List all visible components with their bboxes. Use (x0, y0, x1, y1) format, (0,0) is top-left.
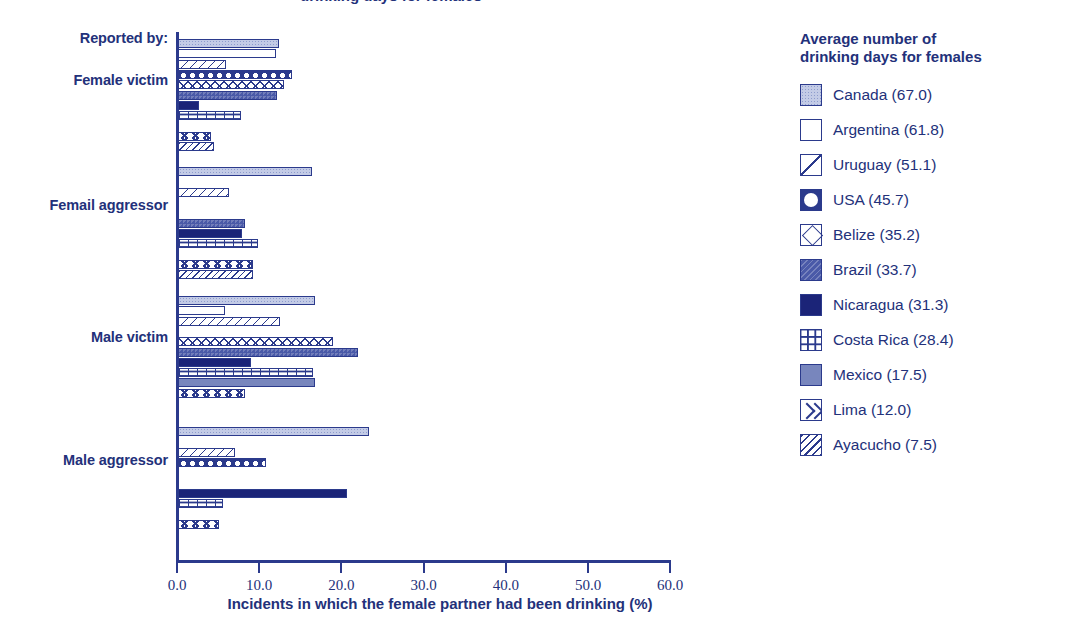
bar-canada-male-victim (178, 296, 315, 305)
legend-item-label: Canada (67.0) (833, 86, 932, 104)
x-tick-mark (587, 563, 589, 573)
bar-uruguay-female-victim (178, 60, 226, 69)
legend-item-label: Mexico (17.5) (833, 366, 927, 384)
x-tick-label: 20.0 (311, 577, 371, 594)
bar-uruguay-male-aggressor (178, 448, 235, 457)
legend-item-costa-rica[interactable]: Costa Rica (28.4) (800, 322, 1062, 357)
bar-usa-male-aggressor (178, 458, 266, 467)
bar-lima-male-aggressor (178, 520, 219, 529)
bar-brazil-male-victim (178, 348, 358, 357)
grid-swatch-icon (800, 329, 822, 351)
legend-item-label: Uruguay (51.1) (833, 156, 936, 174)
white-swatch-icon (800, 119, 822, 141)
legend-item-usa[interactable]: USA (45.7) (800, 182, 1062, 217)
legend-item-label: Ayacucho (7.5) (833, 436, 937, 454)
bar-usa-female-victim (178, 70, 292, 79)
diag-swatch-icon (800, 154, 822, 176)
legend-item-label: Argentina (61.8) (833, 121, 944, 139)
bar-costa-rica-female-victim (178, 111, 241, 120)
chevron-swatch-icon (800, 399, 822, 421)
legend-item-label: Brazil (33.7) (833, 261, 917, 279)
bar-lima-female-victim (178, 132, 211, 141)
bar-mexico-male-victim (178, 378, 315, 387)
legend-item-brazil[interactable]: Brazil (33.7) (800, 252, 1062, 287)
category-label-male-victim: Male victim (0, 329, 168, 345)
x-tick-mark (505, 563, 507, 573)
bar-argentina-female-victim (178, 49, 276, 58)
bar-ayacucho-femail-aggressor (178, 270, 253, 279)
plot-area: 0.010.020.030.040.050.060.0 (176, 32, 682, 560)
legend-item-canada[interactable]: Canada (67.0) (800, 77, 1062, 112)
solid-swatch-icon (800, 294, 822, 316)
legend-item-label: Belize (35.2) (833, 226, 920, 244)
bar-lima-femail-aggressor (178, 260, 253, 269)
bar-nicaragua-male-victim (178, 358, 251, 367)
category-axis-labels: Reported by: Female victim Femail aggres… (0, 0, 168, 560)
bar-brazil-femail-aggressor (178, 219, 245, 228)
legend-item-label: Lima (12.0) (833, 401, 911, 419)
hatch-swatch-icon (800, 434, 822, 456)
x-tick-label: 40.0 (476, 577, 536, 594)
legend: Average number of drinking days for fema… (800, 30, 1062, 462)
x-tick-label: 30.0 (394, 577, 454, 594)
legend-item-lima[interactable]: Lima (12.0) (800, 392, 1062, 427)
category-label-male-aggressor: Male aggressor (0, 452, 168, 468)
reported-by-header: Reported by: (0, 30, 168, 46)
diamond-swatch-icon (800, 224, 822, 246)
clipped-figure-title: drinking days for females (300, 0, 820, 7)
legend-item-mexico[interactable]: Mexico (17.5) (800, 357, 1062, 392)
legend-items: Canada (67.0)Argentina (61.8)Uruguay (51… (800, 77, 1062, 462)
bar-nicaragua-male-aggressor (178, 489, 347, 498)
bar-uruguay-femail-aggressor (178, 188, 229, 197)
x-tick-label: 10.0 (229, 577, 289, 594)
legend-item-label: Costa Rica (28.4) (833, 331, 954, 349)
legend-item-label: Nicaragua (31.3) (833, 296, 948, 314)
stipple-swatch-icon (800, 84, 822, 106)
x-tick-label: 60.0 (640, 577, 700, 594)
bar-lima-male-victim (178, 389, 245, 398)
bar-nicaragua-female-victim (178, 101, 199, 110)
x-axis-title: Incidents in which the female partner ha… (130, 595, 750, 612)
circle-swatch-icon (800, 189, 822, 211)
bar-canada-male-aggressor (178, 427, 369, 436)
x-tick-label: 50.0 (558, 577, 618, 594)
legend-item-belize[interactable]: Belize (35.2) (800, 217, 1062, 252)
bar-brazil-female-victim (178, 91, 277, 100)
legend-item-label: USA (45.7) (833, 191, 909, 209)
x-tick-label: 0.0 (147, 577, 207, 594)
bar-belize-male-victim (178, 337, 333, 346)
chart-page: drinking days for females Reported by: F… (0, 0, 1069, 642)
bar-nicaragua-femail-aggressor (178, 229, 242, 238)
legend-item-argentina[interactable]: Argentina (61.8) (800, 112, 1062, 147)
bar-belize-female-victim (178, 80, 284, 89)
x-tick-mark (176, 563, 178, 573)
bar-canada-femail-aggressor (178, 167, 312, 176)
bar-canada-female-victim (178, 39, 279, 48)
bar-costa-rica-male-aggressor (178, 499, 223, 508)
legend-title: Average number of drinking days for fema… (800, 30, 1062, 65)
bar-costa-rica-femail-aggressor (178, 239, 258, 248)
x-tick-mark (669, 563, 671, 573)
legend-item-uruguay[interactable]: Uruguay (51.1) (800, 147, 1062, 182)
category-label-female-aggressor: Femail aggressor (0, 197, 168, 213)
legend-item-nicaragua[interactable]: Nicaragua (31.3) (800, 287, 1062, 322)
bar-uruguay-male-victim (178, 317, 280, 326)
bar-costa-rica-male-victim (178, 368, 313, 377)
x-tick-mark (340, 563, 342, 573)
brazil-swatch-icon (800, 259, 822, 281)
bar-argentina-male-victim (178, 306, 225, 315)
bar-ayacucho-female-victim (178, 142, 214, 151)
mexico-swatch-icon (800, 364, 822, 386)
x-tick-mark (258, 563, 260, 573)
x-tick-mark (423, 563, 425, 573)
legend-item-ayacucho[interactable]: Ayacucho (7.5) (800, 427, 1062, 462)
category-label-female-victim: Female victim (0, 72, 168, 88)
